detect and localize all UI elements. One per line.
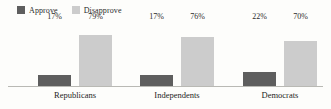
bar-group-label-democrats: Democrats <box>235 90 325 100</box>
bar-rect-approve <box>243 72 276 86</box>
bar-rect-disapprove <box>181 37 214 86</box>
bar-group-bars: 17% 76% <box>132 22 222 86</box>
bar-group-label-independents: Independents <box>132 90 222 100</box>
bar-group-democrats: 22% 70% Democrats <box>235 22 325 86</box>
bar-group-republicans: 17% 79% Republicans <box>30 22 120 86</box>
bar-value-label: 79% <box>88 12 103 21</box>
legend-swatch-approve <box>17 6 25 14</box>
bar-value-label: 22% <box>252 12 267 21</box>
bar-rect-approve <box>38 75 71 86</box>
legend-swatch-disapprove <box>72 6 80 14</box>
bar-value-label: 76% <box>190 12 205 21</box>
bar-democrats-disapprove: 70% <box>284 22 317 86</box>
bar-independents-approve: 17% <box>140 22 173 86</box>
bar-rect-disapprove <box>284 41 317 86</box>
bar-group-label-republicans: Republicans <box>30 90 120 100</box>
bar-democrats-approve: 22% <box>243 22 276 86</box>
bar-value-label: 70% <box>293 12 308 21</box>
bar-value-label: 17% <box>149 12 164 21</box>
bar-independents-disapprove: 76% <box>181 22 214 86</box>
bar-group-independents: 17% 76% Independents <box>132 22 222 86</box>
bar-group-bars: 17% 79% <box>30 22 120 86</box>
bar-rect-disapprove <box>79 35 112 86</box>
bar-republicans-disapprove: 79% <box>79 22 112 86</box>
x-axis-baseline <box>8 86 323 87</box>
bar-republicans-approve: 17% <box>38 22 71 86</box>
bar-value-label: 17% <box>47 12 62 21</box>
plot-area: 17% 79% Republicans 17% 76% <box>0 22 331 86</box>
bar-group-bars: 22% 70% <box>235 22 325 86</box>
chart-legend: Approve Disapprove <box>17 4 122 16</box>
bar-rect-approve <box>140 75 173 86</box>
bar-chart: Approve Disapprove 17% 79% Republicans <box>0 0 331 109</box>
